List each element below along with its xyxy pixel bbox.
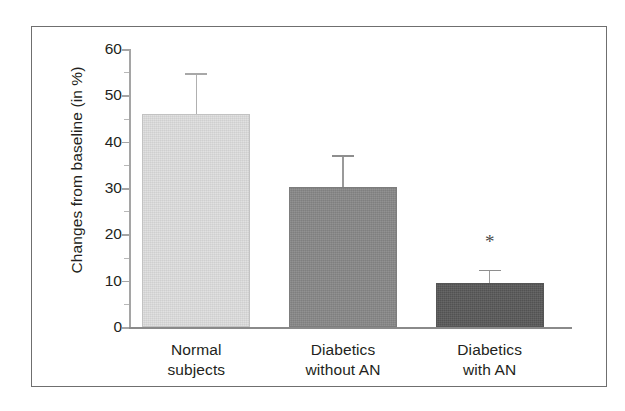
y-tick-minor [124, 304, 129, 305]
y-tick-label: 50 [88, 87, 122, 103]
y-tick-minor [124, 258, 129, 259]
error-bar-cap-1 [185, 73, 207, 75]
y-axis-tick-labels: 0102030405060 [86, 0, 122, 411]
y-tick-label: 60 [88, 41, 122, 57]
y-tick-minor [124, 72, 129, 73]
plot-area: * [129, 49, 569, 327]
y-tick-major [122, 188, 130, 190]
error-bar-stem-3 [489, 270, 491, 283]
y-tick-label: 0 [88, 319, 122, 335]
y-tick-minor [124, 211, 129, 212]
y-tick-major [122, 49, 130, 51]
figure-caption-sliver [33, 399, 608, 411]
error-bar-cap-2 [332, 155, 354, 157]
x-category-label-1: Normal subjects [167, 340, 225, 379]
y-axis-line [129, 49, 131, 327]
y-tick-major [122, 327, 130, 329]
error-bar-stem-1 [196, 73, 198, 114]
y-tick-minor [124, 165, 129, 166]
figure-root: Changes from baseline (in %) 01020304050… [0, 0, 625, 411]
x-axis-baseline [125, 327, 572, 329]
significance-asterisk: * [485, 237, 495, 247]
bar-2 [289, 187, 397, 327]
y-tick-major [122, 281, 130, 283]
y-tick-minor [124, 119, 129, 120]
x-category-label-3: Diabetics with AN [457, 340, 522, 379]
y-tick-label: 20 [88, 226, 122, 242]
y-tick-major [122, 142, 130, 144]
y-tick-label: 40 [88, 134, 122, 150]
y-tick-major [122, 234, 130, 236]
y-tick-major [122, 95, 130, 97]
bar-3 [436, 283, 544, 327]
y-axis-title: Changes from baseline (in %) [66, 20, 88, 320]
error-bar-cap-3 [479, 270, 501, 272]
y-tick-label: 30 [88, 180, 122, 196]
error-bar-stem-2 [342, 155, 344, 187]
y-tick-label: 10 [88, 273, 122, 289]
x-category-label-2: Diabetics without AN [305, 340, 380, 379]
bar-1 [142, 114, 250, 327]
